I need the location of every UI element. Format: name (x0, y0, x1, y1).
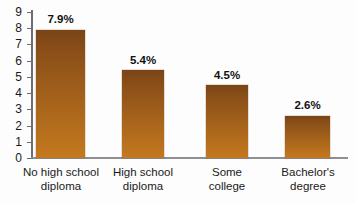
y-tick-mark (27, 28, 33, 29)
bar-chart: 0 1 2 3 4 5 6 7 (0, 0, 356, 203)
bar-value-label: 5.4% (120, 55, 166, 67)
y-tick-label: 5 (2, 71, 22, 83)
plot-area: 0 1 2 3 4 5 6 7 (0, 0, 356, 203)
bar-value-label: 7.9% (36, 14, 85, 26)
y-tick-label: 8 (2, 22, 22, 34)
y-tick-mark (27, 126, 33, 127)
bar-no-high-school-diploma (36, 30, 85, 158)
y-tick-mark (27, 61, 33, 62)
y-tick-label: 0 (2, 152, 22, 164)
y-tick-mark (27, 142, 33, 143)
bar-value-label: 2.6% (284, 100, 331, 112)
y-tick-mark (27, 158, 33, 159)
y-tick-label: 1 (2, 136, 22, 148)
y-tick-label: 3 (2, 103, 22, 115)
y-tick-mark (27, 12, 33, 13)
y-tick-mark (27, 77, 33, 78)
y-tick-label: 9 (2, 6, 22, 18)
y-tick-label: 4 (2, 87, 22, 99)
category-label-bachelors-degree: Bachelor's degree (270, 165, 346, 194)
y-axis-line (31, 10, 33, 159)
y-tick-mark (27, 109, 33, 110)
bar-some-college (206, 85, 248, 158)
y-tick-mark (27, 44, 33, 45)
y-tick-label: 2 (2, 120, 22, 132)
category-label-no-high-school-diploma: No high school diploma (22, 165, 100, 194)
bar-value-label: 4.5% (204, 70, 250, 82)
bar-high-school-diploma (122, 70, 164, 158)
y-tick-label: 7 (2, 38, 22, 50)
category-label-some-college: Some college (191, 165, 263, 194)
y-tick-mark (27, 93, 33, 94)
y-tick-label: 6 (2, 55, 22, 67)
bar-bachelors-degree (285, 116, 330, 158)
category-label-high-school-diploma: High school diploma (107, 165, 179, 194)
